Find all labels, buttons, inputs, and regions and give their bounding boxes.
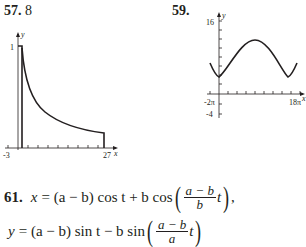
equation-61-x: 61. x = (a − b) cos t + b cos ( a − b b …: [4, 182, 235, 212]
fraction: a − b b: [184, 184, 216, 211]
svg-text:-2π: -2π: [204, 98, 215, 107]
svg-text:y: y: [221, 11, 226, 20]
svg-text:16: 16: [206, 18, 214, 27]
svg-text:27: 27: [103, 151, 111, 160]
x-variable: x: [31, 189, 38, 206]
svg-text:-4: -4: [206, 110, 213, 119]
svg-text:x: x: [113, 149, 118, 158]
x-rhs: = (a − b) cos t + b cos: [41, 189, 172, 206]
y-rhs: = (a − b) sin t − b sin: [19, 223, 145, 240]
svg-text:18π: 18π: [289, 98, 301, 107]
svg-text:1: 1: [10, 43, 14, 52]
equation-61-y: y = (a − b) sin t − b sin ( a − b a t ): [8, 216, 203, 246]
graph-57: y 1 -3 27 x: [0, 30, 125, 155]
svg-text:-3: -3: [3, 151, 10, 160]
problem-number: 57.: [4, 3, 22, 18]
y-variable: y: [8, 223, 15, 240]
svg-text:x: x: [301, 94, 306, 103]
problem-number: 61.: [4, 189, 23, 206]
fraction: a − b a: [156, 218, 188, 245]
problem-57-label: 57. 8: [4, 3, 32, 19]
graph-59: y 16 -4 -2π 18π x: [153, 0, 303, 125]
svg-text:y: y: [20, 30, 25, 39]
problem-answer: 8: [25, 3, 32, 18]
